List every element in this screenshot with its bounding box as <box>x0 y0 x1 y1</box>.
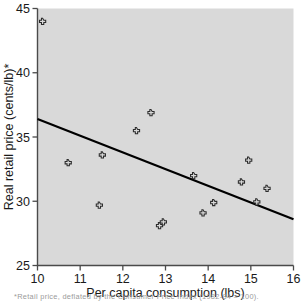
y-axis-tick-label: 40 <box>16 66 30 80</box>
plot-area: 253035404510111213141516Per capita consu… <box>2 2 301 300</box>
x-axis-tick-label: 15 <box>244 272 258 286</box>
scatter-plot: 253035404510111213141516Per capita consu… <box>0 0 301 301</box>
x-axis-tick-label: 14 <box>201 272 215 286</box>
plot-background <box>38 9 294 266</box>
y-axis-tick-label: 25 <box>16 259 30 273</box>
y-axis-tick-label: 45 <box>16 2 30 16</box>
x-axis-tick-label: 13 <box>159 272 173 286</box>
caption-text: *Retail price, deflated by the Consumer … <box>14 292 301 301</box>
y-axis-title: Real retail price (cents/lb)* <box>2 64 16 211</box>
y-axis-tick-label: 30 <box>16 195 30 209</box>
chart-figure: 253035404510111213141516Per capita consu… <box>0 0 301 301</box>
x-axis-tick-label: 10 <box>31 272 45 286</box>
x-axis-tick-label: 16 <box>287 272 301 286</box>
y-axis-tick-label: 35 <box>16 131 30 145</box>
x-axis-tick-label: 12 <box>116 272 130 286</box>
x-axis-tick-label: 11 <box>74 272 87 286</box>
figure-caption: *Retail price, deflated by the Consumer … <box>0 292 301 301</box>
